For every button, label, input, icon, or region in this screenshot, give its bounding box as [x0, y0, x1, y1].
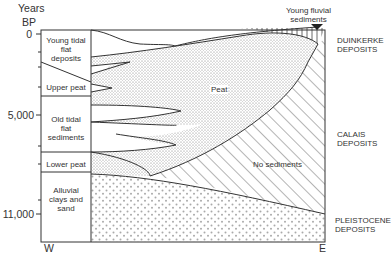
- tick-0: 0: [0, 28, 32, 40]
- text: Young tidal: [42, 36, 90, 45]
- text: DEPOSITS: [335, 225, 391, 234]
- label-peat: Peat: [210, 85, 228, 94]
- label-upper-peat: Upper peat: [42, 83, 90, 92]
- label-old-tidal: Old tidal flat sediments: [42, 115, 90, 142]
- text: DUINKERKE: [337, 36, 384, 45]
- text: PLEISTOCENE: [335, 216, 391, 225]
- text: Old tidal: [42, 115, 90, 124]
- text: Young fluvial: [286, 6, 331, 15]
- text: sand: [42, 204, 90, 213]
- text: sediments: [286, 15, 331, 24]
- tick-5000: 5,000: [0, 109, 34, 121]
- label-calais: CALAIS DEPOSITS: [337, 130, 377, 148]
- text: DEPOSITS: [337, 139, 377, 148]
- axis-title-bp: BP: [22, 16, 36, 28]
- west-label: W: [44, 242, 54, 254]
- text: flat: [42, 124, 90, 133]
- tick-11000: 11,000: [0, 208, 34, 220]
- text: sediments: [42, 133, 90, 142]
- label-alluvial: Alluvial clays and sand: [42, 186, 90, 213]
- axis-title-years: Years: [18, 2, 44, 14]
- text: CALAIS: [337, 130, 377, 139]
- text: DEPOSITS: [337, 45, 384, 54]
- label-young-tidal: Young tidal flat deposits: [42, 36, 90, 63]
- label-lower-peat: Lower peat: [42, 160, 90, 169]
- label-duinkerke: DUINKERKE DEPOSITS: [337, 36, 384, 54]
- label-young-fluvial: Young fluvial sediments: [286, 6, 331, 24]
- text: Alluvial: [42, 186, 90, 195]
- east-label: E: [319, 242, 326, 254]
- text: flat: [42, 45, 90, 54]
- label-pleistocene: PLEISTOCENE DEPOSITS: [335, 216, 391, 234]
- label-no-sediments: No sediments: [253, 160, 302, 169]
- text: deposits: [42, 54, 90, 63]
- text: clays and: [42, 195, 90, 204]
